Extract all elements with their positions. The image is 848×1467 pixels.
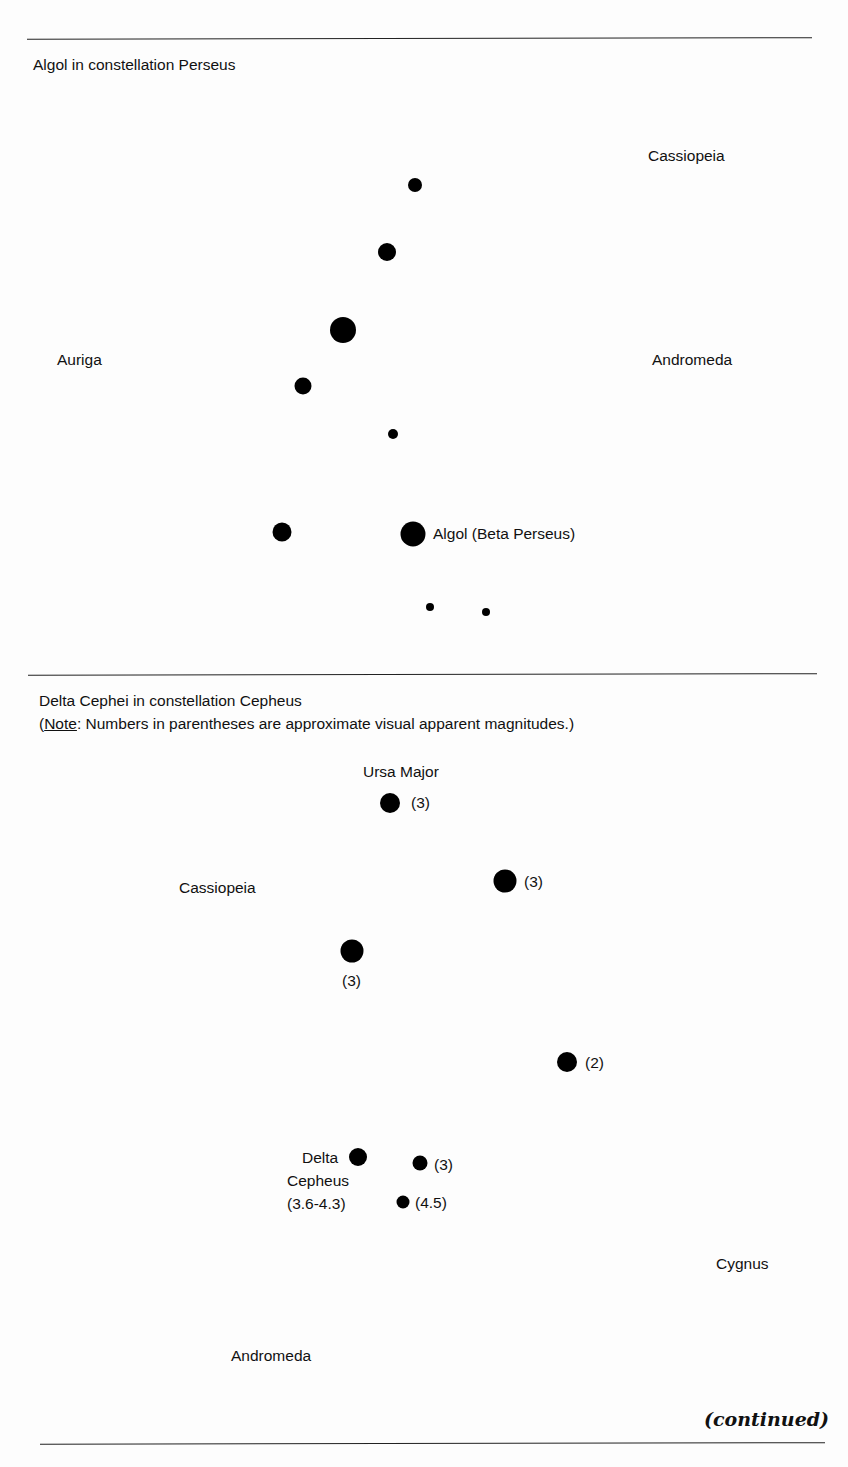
label-ursa-major: Ursa Major	[363, 764, 439, 780]
star-icon	[380, 793, 400, 813]
middle-rule	[28, 673, 817, 676]
label-cygnus: Cygnus	[716, 1256, 769, 1272]
top-rule	[27, 37, 812, 40]
delta-cephei-star-icon	[349, 1148, 367, 1166]
star-icon	[557, 1052, 577, 1072]
label-delta-line2: Cepheus	[287, 1173, 349, 1189]
star-icon	[397, 1196, 410, 1209]
star-icon	[408, 178, 422, 192]
star-icon	[388, 429, 398, 439]
star-icon	[426, 603, 434, 611]
continued-label: (continued)	[704, 1408, 829, 1430]
star-icon	[295, 378, 312, 395]
star-icon	[482, 608, 490, 616]
label-cassiopeia: Cassiopeia	[648, 148, 725, 164]
magnitude-label: (3)	[434, 1157, 453, 1173]
star-icon	[494, 870, 517, 893]
label-cassiopeia-2: Cassiopeia	[179, 880, 256, 896]
magnitude-label: (3)	[411, 795, 430, 811]
label-auriga: Auriga	[57, 352, 102, 368]
bottom-rule	[40, 1442, 825, 1445]
magnitude-label: (3)	[342, 973, 361, 989]
star-icon	[413, 1156, 428, 1171]
section2-title: Delta Cephei in constellation Cepheus	[39, 693, 302, 709]
label-delta-line1: Delta	[302, 1150, 338, 1166]
star-icon	[273, 523, 292, 542]
magnitude-label: (3)	[524, 874, 543, 890]
star-icon	[330, 317, 356, 343]
magnitude-label: (4.5)	[415, 1195, 447, 1211]
section1-title: Algol in constellation Perseus	[33, 57, 235, 73]
label-algol: Algol (Beta Perseus)	[433, 526, 575, 542]
label-andromeda: Andromeda	[652, 352, 732, 368]
algol-star-icon	[401, 522, 426, 547]
star-icon	[341, 940, 364, 963]
label-delta-line3: (3.6-4.3)	[287, 1196, 346, 1212]
magnitude-label: (2)	[585, 1055, 604, 1071]
star-icon	[378, 243, 396, 261]
note-word: Note	[44, 715, 77, 732]
label-andromeda-2: Andromeda	[231, 1348, 311, 1364]
section2-note: (Note: Numbers in parentheses are approx…	[39, 716, 574, 732]
